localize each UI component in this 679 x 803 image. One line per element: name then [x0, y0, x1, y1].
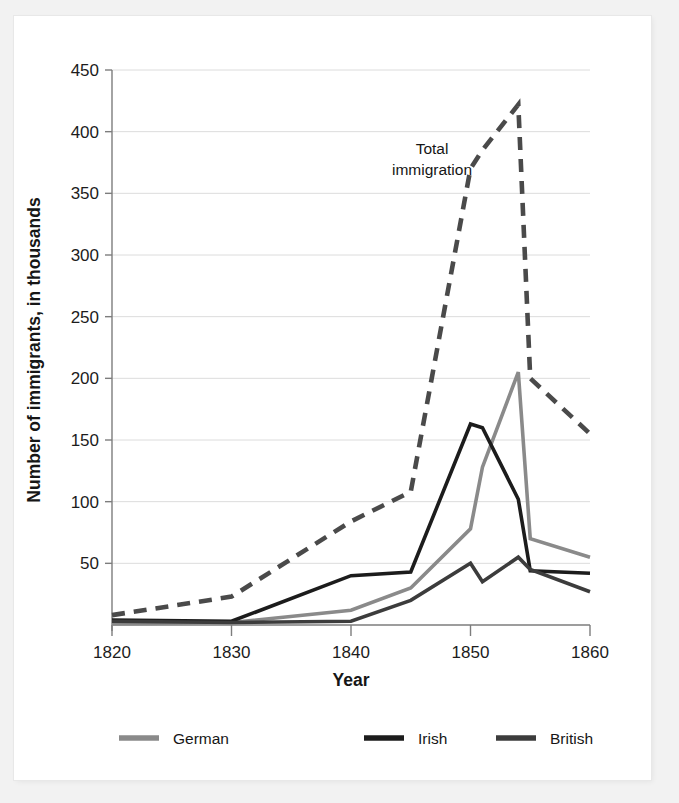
legend-label-british: British	[550, 730, 593, 747]
series-line-total-immigration	[112, 105, 590, 616]
chart-canvas: 50100150200250300350400450 1820183018401…	[0, 0, 679, 803]
x-axis-title: Year	[333, 670, 370, 690]
annotation-line-2: immigration	[392, 161, 472, 178]
y-tick-label-150: 150	[71, 431, 99, 450]
data-series-group	[112, 105, 590, 624]
immigration-line-chart: 50100150200250300350400450 1820183018401…	[0, 0, 679, 803]
y-axis-title: Number of immigrants, in thousands	[24, 197, 44, 503]
legend-label-german: German	[173, 730, 229, 747]
y-tick-label-350: 350	[71, 184, 99, 203]
x-tick-label-1860: 1860	[571, 643, 609, 662]
x-tick-label-1830: 1830	[213, 643, 251, 662]
y-tick-label-400: 400	[71, 123, 99, 142]
series-line-irish	[112, 424, 590, 621]
x-tick-label-1840: 1840	[332, 643, 370, 662]
y-tick-label-300: 300	[71, 246, 99, 265]
series-line-british	[112, 557, 590, 622]
chart-annotation: Total immigration	[392, 140, 472, 178]
y-tick-label-50: 50	[80, 554, 99, 573]
y-tick-label-450: 450	[71, 61, 99, 80]
y-tick-label-250: 250	[71, 308, 99, 327]
x-tick-label-1850: 1850	[452, 643, 490, 662]
legend-label-irish: Irish	[418, 730, 447, 747]
y-axis-tick-labels: 50100150200250300350400450	[71, 61, 112, 573]
x-tick-label-1820: 1820	[93, 643, 131, 662]
x-axis-tick-labels: 18201830184018501860	[93, 625, 609, 662]
annotation-line-1: Total	[416, 140, 449, 157]
y-tick-label-200: 200	[71, 369, 99, 388]
y-tick-label-100: 100	[71, 493, 99, 512]
chart-legend: GermanIrishBritish	[119, 730, 593, 747]
axes	[112, 70, 590, 631]
